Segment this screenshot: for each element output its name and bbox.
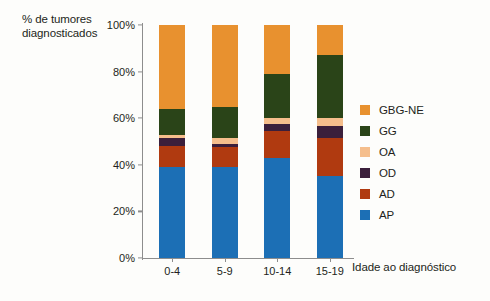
bar-segment-od — [317, 126, 343, 138]
bar-segment-gbg-ne — [317, 25, 343, 55]
legend-item: OD — [360, 162, 424, 183]
legend-label: OA — [379, 146, 395, 158]
legend-item: AP — [360, 204, 424, 225]
y-axis-tick-mark — [138, 164, 142, 165]
bar-segment-gg — [159, 109, 185, 135]
legend-item: GBG-NE — [360, 99, 424, 120]
legend-swatch-icon — [360, 168, 370, 178]
x-axis-tick-mark — [172, 258, 173, 262]
chart-legend: GBG-NEGGOAODADAP — [360, 99, 424, 225]
x-axis-tick-label: 5-9 — [217, 265, 233, 277]
y-axis-tick-label: 100% — [107, 19, 142, 31]
y-axis-tick-mark — [138, 24, 142, 25]
bar-segment-gg — [212, 107, 238, 138]
bar-segment-gg — [317, 55, 343, 118]
bar-segment-oa — [159, 135, 185, 138]
x-axis-tick-label: 0-4 — [164, 265, 180, 277]
bar-segment-oa — [317, 118, 343, 126]
legend-label: GG — [379, 125, 397, 137]
plot-area: 0%20%40%60%80%100%0-45-910-1415-19 — [142, 25, 352, 258]
bar-segment-ap — [264, 158, 290, 258]
y-axis-tick-mark — [138, 211, 142, 212]
y-axis-tick-mark — [138, 118, 142, 119]
legend-swatch-icon — [360, 126, 370, 136]
bar-segment-ad — [212, 147, 238, 167]
legend-label: GBG-NE — [379, 104, 424, 116]
legend-item: OA — [360, 141, 424, 162]
bar-segment-gbg-ne — [159, 25, 185, 109]
bar-segment-ap — [317, 176, 343, 258]
legend-swatch-icon — [360, 147, 370, 157]
legend-swatch-icon — [360, 189, 370, 199]
x-axis-tick-mark — [330, 258, 331, 262]
legend-swatch-icon — [360, 105, 370, 115]
legend-label: AP — [379, 209, 394, 221]
bar-segment-gbg-ne — [264, 25, 290, 74]
stacked-bar: 10-14 — [264, 25, 290, 258]
x-axis-title: Idade ao diagnóstico — [352, 261, 456, 273]
bar-segment-ap — [159, 167, 185, 258]
bar-segment-ap — [212, 167, 238, 258]
bar-segment-ad — [264, 131, 290, 158]
bar-segment-oa — [212, 138, 238, 144]
legend-label: AD — [379, 188, 395, 200]
stacked-bar: 0-4 — [159, 25, 185, 258]
bar-segment-ad — [159, 146, 185, 167]
legend-item: AD — [360, 183, 424, 204]
x-axis-line — [142, 258, 354, 259]
y-axis-tick-mark — [138, 71, 142, 72]
bar-segment-od — [212, 144, 238, 147]
bar-segment-oa — [264, 118, 290, 124]
bar-segment-od — [264, 124, 290, 131]
bar-segment-gbg-ne — [212, 25, 238, 107]
stacked-bar: 5-9 — [212, 25, 238, 258]
legend-label: OD — [379, 167, 396, 179]
x-axis-tick-mark — [225, 258, 226, 262]
x-axis-tick-label: 15-19 — [316, 265, 344, 277]
y-axis-tick-mark — [138, 257, 142, 258]
bar-segment-ad — [317, 138, 343, 176]
stacked-bar: 15-19 — [317, 25, 343, 258]
chart-figure: % de tumores diagnosticados 0%20%40%60%8… — [0, 0, 490, 301]
legend-item: GG — [360, 120, 424, 141]
bar-segment-od — [159, 138, 185, 146]
x-axis-tick-mark — [277, 258, 278, 262]
x-axis-tick-label: 10-14 — [263, 265, 291, 277]
bar-segment-gg — [264, 74, 290, 118]
legend-swatch-icon — [360, 210, 370, 220]
